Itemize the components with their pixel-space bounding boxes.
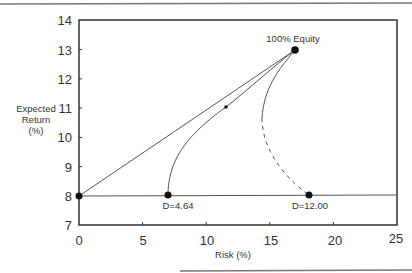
- label-equity: 100% Equity: [266, 33, 320, 44]
- svg-text:(%): (%): [29, 125, 44, 136]
- y-tick-labels: 7 8 9 10 11 12 13 14: [58, 13, 72, 233]
- svg-text:8: 8: [65, 189, 72, 204]
- marker-risk-free: [76, 193, 83, 200]
- label-d1200: D=12.00: [292, 200, 328, 211]
- svg-text:25: 25: [389, 231, 403, 246]
- x-tick-labels: 0 5 10 15 20 25: [75, 231, 403, 248]
- frontier-curve-d1200-dashed: [262, 118, 309, 195]
- x-axis-title: Risk (%): [215, 249, 251, 260]
- top-rule: [0, 3, 412, 4]
- svg-text:20: 20: [328, 233, 342, 248]
- svg-text:9: 9: [65, 160, 72, 175]
- chart: 7 8 9 10 11 12 13 14 0 5 10 15 20 25 Ris…: [0, 0, 412, 273]
- svg-text:7: 7: [65, 218, 72, 233]
- marker-small-dot: [224, 105, 228, 109]
- y-axis-title: Expected Return (%): [16, 103, 56, 136]
- svg-text:11: 11: [59, 101, 73, 116]
- capital-market-line: [79, 50, 295, 196]
- svg-text:5: 5: [139, 233, 146, 248]
- label-d464: D=4.64: [163, 200, 194, 211]
- svg-text:Return: Return: [22, 114, 51, 125]
- svg-text:15: 15: [264, 233, 278, 248]
- marker-equity: [291, 46, 299, 54]
- frontier-curve-d1200-solid: [262, 50, 295, 118]
- svg-text:0: 0: [75, 233, 82, 248]
- svg-text:Expected: Expected: [16, 103, 56, 114]
- bottom-rule: [180, 270, 412, 271]
- svg-text:12: 12: [58, 72, 72, 87]
- plot-frame: [79, 20, 397, 225]
- marker-d1200: [306, 192, 313, 199]
- marker-d464: [165, 192, 172, 199]
- svg-text:13: 13: [58, 43, 72, 58]
- svg-text:10: 10: [200, 233, 214, 248]
- svg-text:10: 10: [58, 130, 72, 145]
- svg-text:14: 14: [58, 13, 72, 28]
- risk-free-line: [79, 195, 397, 196]
